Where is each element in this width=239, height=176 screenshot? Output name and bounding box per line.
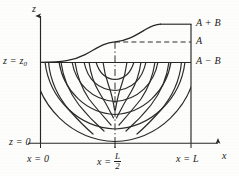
label-x-equals-L: x = L <box>176 153 199 164</box>
label-z-equals-z0: z = z0 <box>3 55 27 68</box>
streamline <box>49 62 94 134</box>
free-surface-curve <box>41 24 161 62</box>
fraction-L-over-2: L2 <box>114 152 121 171</box>
streamline <box>75 62 111 125</box>
streamline <box>137 62 182 134</box>
label-x-equals-zero: x = 0 <box>27 153 49 164</box>
label-a-plus-b: A + B <box>196 17 221 28</box>
z-axis-label: z <box>32 3 36 14</box>
label-z-equals-z0-main: z = z <box>3 55 24 66</box>
label-z-equals-z0-subscript: 0 <box>24 60 28 68</box>
label-x-equals-half-L: x = L2 <box>97 152 121 171</box>
label-x-half-prefix: x = <box>97 156 114 167</box>
fraction-denominator: 2 <box>114 162 121 171</box>
equipotential-line <box>72 62 158 102</box>
streamline <box>119 62 155 125</box>
label-z-equals-zero: z = 0 <box>9 136 31 147</box>
label-a: A <box>196 35 202 46</box>
figure-screenshot: z x z = z0 z = 0 x = 0 x = L2 x = L A + … <box>0 0 239 176</box>
label-a-minus-b: A − B <box>196 55 221 66</box>
x-axis-ticks <box>41 143 192 148</box>
x-axis-label: x <box>222 150 227 161</box>
